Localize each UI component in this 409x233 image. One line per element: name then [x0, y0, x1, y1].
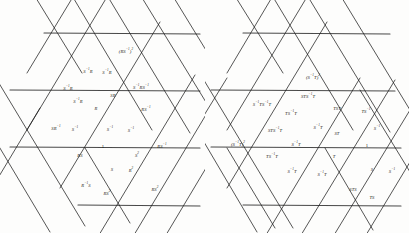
label-right-19: S−1 [389, 169, 395, 174]
falling-lattice-lines [0, 0, 205, 232]
label-left-9: RS−1 [141, 107, 150, 112]
label-left-14: 1 [102, 145, 104, 150]
label-right-12: S−1T [291, 142, 300, 147]
panel-right-cayley-diagram: (S−1T)2 STS−1T S−1TS−1T TST TS−1 TS−1T S… [205, 0, 409, 233]
label-left-5: S−1RS−1 [133, 85, 149, 90]
label-left-18: S [111, 168, 113, 173]
label-left-15: RS [77, 154, 82, 159]
horizontal-lattice-lines [10, 33, 200, 206]
label-left-4: S−1R [63, 86, 72, 91]
label-right-18: S [371, 168, 373, 173]
label-left-3: S−1R [102, 70, 111, 75]
label-right-13: 1 [366, 144, 368, 149]
label-left-16: RS−1 [157, 144, 166, 149]
rising-lattice-lines [0, 0, 205, 233]
label-right-3: S−1TS−1T [253, 102, 271, 107]
panel-left-cayley-diagram: (RS−1)2 S−1R S−1R S−1R S−1RS−1 SR S−1R R… [0, 0, 205, 233]
label-right-11: (S−1T)2 [231, 142, 245, 147]
label-left-8: R [95, 107, 98, 112]
label-right-4: TST [333, 107, 341, 112]
label-right-15: T [333, 155, 336, 160]
label-left-1: (RS−1)2 [119, 49, 133, 54]
panel-left-lattice-svg [0, 0, 205, 233]
label-right-6: TS−1T [285, 111, 297, 116]
label-left-10: SR−1 [51, 126, 60, 131]
rising-lattice-lines [205, 0, 409, 233]
label-left-21: RS2 [103, 191, 110, 196]
label-right-14: TS−1T [266, 154, 278, 159]
label-right-21: TS [369, 196, 374, 201]
label-right-1: (S−1T)2 [306, 75, 320, 80]
label-right-17: S−1T [317, 172, 326, 177]
label-left-6: SR [110, 94, 115, 99]
label-right-9: ST [334, 132, 339, 137]
label-right-8: S−1T [313, 125, 322, 130]
label-left-12: S−1 [107, 127, 113, 132]
horizontal-lattice-lines [211, 33, 401, 206]
label-right-20: STS [349, 188, 356, 193]
label-left-13: S−1 [128, 128, 134, 133]
label-left-19: R2 [129, 168, 134, 173]
label-left-2: S−1R [83, 69, 92, 74]
label-left-7: S−1R [73, 99, 82, 104]
label-right-5: TS−1 [361, 109, 370, 114]
label-left-20: R−1S [81, 183, 90, 188]
label-right-2: STS−1T [301, 94, 315, 99]
label-right-16: S−1T [287, 169, 296, 174]
label-right-7: STS−1T [268, 128, 282, 133]
label-right-10: S−1 [374, 126, 380, 131]
figure-root: (RS−1)2 S−1R S−1R S−1R S−1RS−1 SR S−1R R… [0, 0, 409, 233]
label-left-11: S−1 [72, 127, 78, 132]
panel-right-lattice-svg [205, 0, 409, 233]
label-left-22: RS2 [151, 187, 158, 192]
label-left-17: S2 [135, 153, 139, 158]
